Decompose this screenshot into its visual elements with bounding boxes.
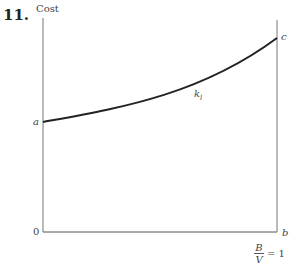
x-axis-label: B V = 1 [254,242,285,265]
fraction-rhs: = 1 [267,248,285,259]
curve-label: kl [194,88,202,102]
origin-label: 0 [33,226,39,237]
point-c-label: c [281,31,287,42]
cost-curve [43,38,277,122]
curve-label-sub: l [200,94,202,102]
fraction-denominator: V [255,254,262,265]
fraction-numerator: B [255,242,262,253]
point-a-label: a [33,116,39,127]
point-b-label: b [282,227,288,238]
figure: 11. Cost a c b 0 kl B V = 1 [0,0,299,274]
chart-plot [0,0,299,274]
